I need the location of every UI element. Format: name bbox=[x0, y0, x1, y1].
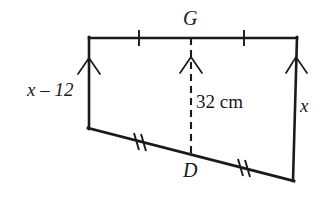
height-measure-label: 32 cm bbox=[196, 92, 243, 111]
right-side-length-label: x bbox=[300, 96, 308, 115]
vertex-label-d: D bbox=[183, 160, 197, 180]
geometry-figure: G D x – 12 x 32 cm bbox=[0, 0, 328, 202]
vertex-label-g: G bbox=[183, 8, 197, 28]
trapezoid-drawing bbox=[0, 0, 328, 202]
left-side-length-label: x – 12 bbox=[27, 80, 73, 99]
